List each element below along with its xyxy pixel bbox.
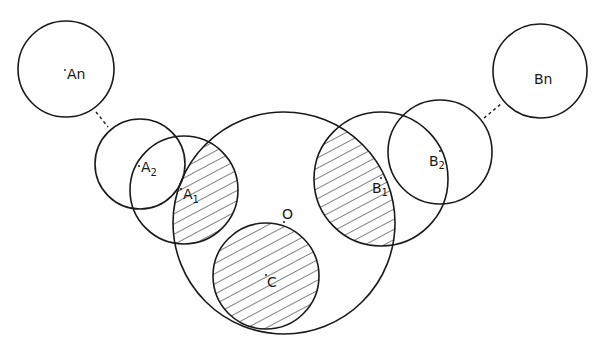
center-dot-a2 [138, 165, 140, 167]
center-dot-a1 [180, 188, 182, 190]
label-bn: Bn [534, 71, 552, 87]
circle-an [18, 21, 114, 117]
circle-a2 [95, 119, 185, 209]
center-dot-an [64, 69, 66, 71]
dashed-connector-an-a2 [96, 112, 108, 127]
label-c: C [267, 274, 277, 290]
dashed-connector-b2-bn [484, 104, 501, 118]
label-a2: A2 [141, 159, 157, 178]
center-dot-b1 [380, 177, 382, 179]
circle-diagram: An A2 A1 O C B1 B2 Bn [0, 0, 608, 350]
label-o: O [282, 206, 293, 222]
label-b2: B2 [429, 153, 445, 171]
center-dot-b2 [439, 150, 441, 152]
label-an: An [67, 66, 85, 82]
